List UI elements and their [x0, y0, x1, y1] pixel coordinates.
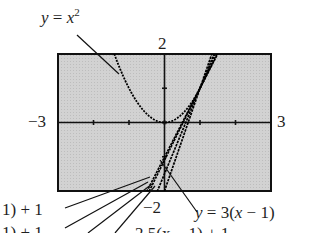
x-min-tick-label: −3	[28, 113, 46, 130]
label-text: − 1)	[242, 203, 274, 222]
label-text: = 3(	[203, 203, 235, 222]
label-exponent: 2	[74, 6, 80, 18]
secant-label-1: 1) + 1	[2, 201, 43, 218]
x-max-tick-label: 3	[277, 113, 286, 130]
label-eq: =	[49, 8, 67, 27]
y-min-tick-label: −2	[143, 199, 161, 216]
label-var-y: y	[41, 8, 49, 27]
y-max-tick-label: 2	[158, 35, 167, 52]
parabola-label: y = x2	[41, 9, 80, 26]
secant-label-25: 2.5(x − 1) + 1	[135, 225, 229, 233]
label-var-y: y	[195, 203, 203, 222]
secant-label-2: 1) + 1	[2, 224, 43, 233]
line3-label: y = 3(x − 1)	[195, 204, 275, 221]
